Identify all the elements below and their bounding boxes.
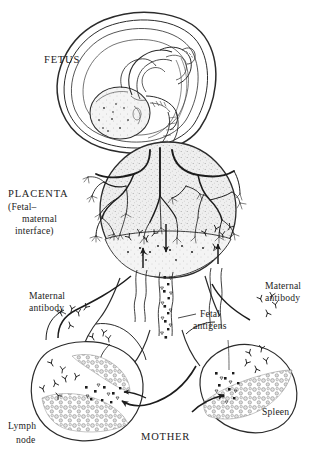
- label-maternal-antibody-right-2: antibody: [265, 292, 300, 303]
- label-spleen: Spleen: [262, 406, 289, 417]
- placenta-disc-icon: [83, 142, 246, 278]
- fetal-antigen-particles: [163, 276, 170, 339]
- label-placenta-sub-2: maternal: [22, 213, 57, 224]
- label-lymph-node-2: node: [16, 434, 35, 445]
- maternal-fetal-immunology-figure: FETUS PLACENTA (Fetal– maternal interfac…: [0, 0, 321, 463]
- fetus-body-icon: [90, 47, 195, 139]
- label-fetus: FETUS: [44, 54, 80, 66]
- fetal-antigen-triangles: [161, 277, 173, 335]
- label-maternal-antibody-left-2: antibody: [29, 302, 64, 313]
- label-mother: MOTHER: [141, 431, 190, 443]
- label-maternal-antibody-right-1: Maternal: [265, 280, 301, 291]
- label-lymph-node-1: Lymph: [8, 420, 36, 431]
- label-maternal-antibody-left-1: Maternal: [29, 290, 65, 301]
- label-placenta-sub-3: interface): [15, 225, 54, 236]
- maternal-spleen-icon: [200, 340, 297, 433]
- fetal-antigens-leader-line: [178, 314, 196, 318]
- label-placenta-sub-1: (Fetal–: [8, 201, 37, 212]
- maternal-lymph-node-icon: [31, 342, 143, 441]
- label-placenta: PLACENTA: [8, 188, 68, 200]
- label-fetal-antigens-1: Fetal: [200, 308, 220, 319]
- label-fetal-antigens-2: antigens: [193, 320, 227, 331]
